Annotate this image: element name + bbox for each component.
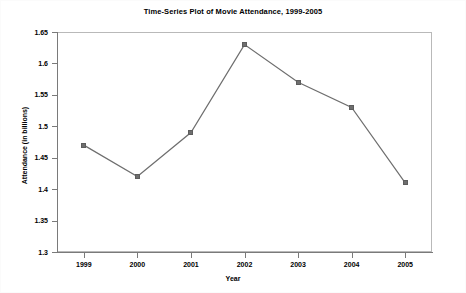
x-tick-label: 2004 [328, 261, 376, 268]
y-tick-label: 1.65 [8, 29, 48, 36]
plot-area [57, 32, 432, 252]
y-tick-label: 1.4 [8, 186, 48, 193]
x-axis-title: Year [0, 275, 466, 282]
x-tick-label: 2000 [113, 261, 161, 268]
x-tick-label: 2003 [274, 261, 322, 268]
data-point-marker [81, 143, 86, 148]
y-tick [52, 63, 57, 64]
x-tick-label: 2005 [381, 261, 429, 268]
y-tick [52, 252, 57, 253]
y-tick-label: 1.35 [8, 217, 48, 224]
data-point-marker [135, 174, 140, 179]
x-tick [137, 253, 138, 258]
x-tick [245, 253, 246, 258]
x-tick [298, 253, 299, 258]
x-tick [405, 253, 406, 258]
y-axis-line [57, 32, 58, 253]
x-tick-label: 2002 [221, 261, 269, 268]
y-axis-title: Attendance (in billions) [21, 81, 28, 211]
y-tick [52, 126, 57, 127]
y-tick-label: 1.45 [8, 154, 48, 161]
y-tick-label: 1.3 [8, 249, 48, 256]
y-tick [52, 158, 57, 159]
data-point-marker [296, 80, 301, 85]
data-point-marker [242, 42, 247, 47]
x-tick-label: 2001 [167, 261, 215, 268]
chart-title: Time-Series Plot of Movie Attendance, 19… [0, 7, 466, 16]
y-tick [52, 95, 57, 96]
y-tick [52, 32, 57, 33]
data-point-marker [403, 180, 408, 185]
y-tick [52, 189, 57, 190]
y-tick-label: 1.55 [8, 91, 48, 98]
data-point-marker [188, 130, 193, 135]
x-tick [352, 253, 353, 258]
y-tick-label: 1.6 [8, 60, 48, 67]
chart-page: Time-Series Plot of Movie Attendance, 19… [0, 0, 466, 293]
data-point-marker [349, 105, 354, 110]
x-tick [84, 253, 85, 258]
x-tick [191, 253, 192, 258]
y-tick-label: 1.5 [8, 123, 48, 130]
y-tick [52, 221, 57, 222]
x-tick-label: 1999 [60, 261, 108, 268]
